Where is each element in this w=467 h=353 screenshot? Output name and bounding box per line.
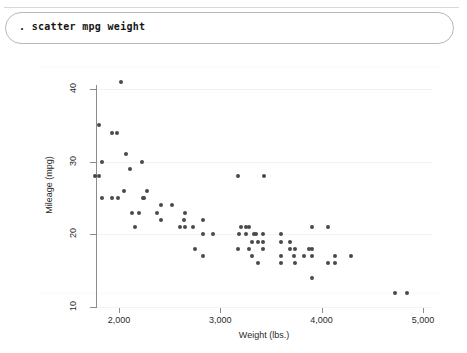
scatter-point bbox=[100, 160, 104, 164]
scatter-point bbox=[292, 254, 296, 258]
scatter-point bbox=[236, 247, 240, 251]
scatter-plot[interactable]: Mileage (mpg) Weight (lbs.) 102030402,00… bbox=[0, 60, 467, 353]
x-axis-title: Weight (lbs.) bbox=[96, 330, 432, 340]
x-axis-tick bbox=[423, 308, 424, 313]
scatter-point bbox=[183, 225, 187, 229]
scatter-point bbox=[237, 232, 241, 236]
scatter-point bbox=[256, 261, 260, 265]
scatter-point bbox=[201, 232, 205, 236]
y-axis-tick bbox=[90, 89, 96, 90]
y-axis-tick bbox=[90, 162, 96, 163]
scatter-point bbox=[250, 254, 254, 258]
scatter-point bbox=[201, 254, 205, 258]
x-axis-tick bbox=[322, 308, 323, 313]
scatter-point bbox=[333, 254, 337, 258]
scatter-point bbox=[349, 254, 353, 258]
x-axis-tick-label: 2,000 bbox=[97, 315, 141, 325]
window-chrome-strip bbox=[0, 0, 467, 9]
y-axis-title: Mileage (mpg) bbox=[44, 130, 54, 240]
x-axis-tick-label: 4,000 bbox=[300, 315, 344, 325]
scatter-point bbox=[115, 131, 119, 135]
gridline-y bbox=[97, 307, 432, 308]
window-chrome-divider bbox=[4, 7, 459, 8]
command-input[interactable]: . scatter mpg weight bbox=[5, 12, 454, 44]
scatter-point bbox=[159, 218, 163, 222]
scatter-point bbox=[100, 196, 104, 200]
scatter-point bbox=[279, 261, 283, 265]
scatter-point bbox=[310, 225, 314, 229]
scatter-point bbox=[250, 240, 254, 244]
scatter-point bbox=[247, 225, 251, 229]
scatter-point bbox=[183, 211, 187, 215]
scatter-point bbox=[302, 254, 306, 258]
scatter-point bbox=[262, 174, 266, 178]
scatter-point bbox=[110, 196, 114, 200]
scatter-point bbox=[293, 247, 297, 251]
scatter-point bbox=[247, 247, 251, 251]
scatter-point bbox=[254, 232, 258, 236]
y-axis-tick-label: 10 bbox=[68, 291, 78, 321]
y-axis-tick-label: 30 bbox=[68, 146, 78, 176]
scatter-point bbox=[288, 247, 292, 251]
scatter-point bbox=[256, 240, 260, 244]
scatter-point bbox=[244, 232, 248, 236]
scatter-point bbox=[140, 160, 144, 164]
y-axis-tick-label: 40 bbox=[68, 73, 78, 103]
scatter-point bbox=[124, 152, 128, 156]
scatter-point bbox=[159, 203, 163, 207]
scatter-point bbox=[145, 189, 149, 193]
scatter-point bbox=[393, 291, 397, 295]
scatter-point bbox=[97, 123, 101, 127]
scatter-point bbox=[279, 232, 283, 236]
scatter-point bbox=[97, 174, 101, 178]
command-input-text: . scatter mpg weight bbox=[19, 21, 145, 32]
scatter-point bbox=[261, 232, 265, 236]
y-axis-tick-label: 20 bbox=[68, 218, 78, 248]
x-axis-tick-label: 5,000 bbox=[401, 315, 445, 325]
scatter-point bbox=[239, 225, 243, 229]
scatter-point bbox=[310, 276, 314, 280]
graph-window[interactable]: Mileage (mpg) Weight (lbs.) 102030402,00… bbox=[0, 60, 467, 353]
y-axis-tick bbox=[90, 307, 96, 308]
scatter-point bbox=[211, 232, 215, 236]
scatter-point bbox=[128, 167, 132, 171]
x-axis-tick-label: 3,000 bbox=[198, 315, 242, 325]
scatter-point bbox=[326, 261, 330, 265]
scatter-point bbox=[122, 189, 126, 193]
scatter-point bbox=[178, 225, 182, 229]
scatter-point bbox=[201, 218, 205, 222]
y-axis-line bbox=[96, 85, 97, 308]
scatter-point bbox=[170, 203, 174, 207]
x-axis-tick bbox=[119, 308, 120, 313]
scatter-point bbox=[191, 225, 195, 229]
gridline-y bbox=[97, 162, 432, 163]
scatter-point bbox=[142, 196, 146, 200]
scatter-point bbox=[333, 261, 337, 265]
scatter-point bbox=[261, 240, 265, 244]
scatter-point bbox=[405, 291, 409, 295]
scatter-point bbox=[288, 240, 292, 244]
scatter-point bbox=[133, 225, 137, 229]
scatter-point bbox=[261, 247, 265, 251]
scatter-point bbox=[116, 196, 120, 200]
y-axis-tick bbox=[90, 234, 96, 235]
scatter-point bbox=[110, 131, 114, 135]
scatter-point bbox=[155, 211, 159, 215]
scatter-point bbox=[130, 211, 134, 215]
x-axis-tick bbox=[220, 308, 221, 313]
scatter-point bbox=[193, 247, 197, 251]
scatter-point bbox=[236, 174, 240, 178]
gridline-y bbox=[97, 89, 432, 90]
scatter-point bbox=[326, 225, 330, 229]
scatter-point bbox=[293, 261, 297, 265]
scatter-point bbox=[137, 211, 141, 215]
scatter-point bbox=[310, 254, 314, 258]
scatter-point bbox=[119, 80, 123, 84]
scatter-point bbox=[279, 240, 283, 244]
scatter-point bbox=[182, 218, 186, 222]
scatter-point bbox=[310, 247, 314, 251]
scatter-point bbox=[279, 254, 283, 258]
